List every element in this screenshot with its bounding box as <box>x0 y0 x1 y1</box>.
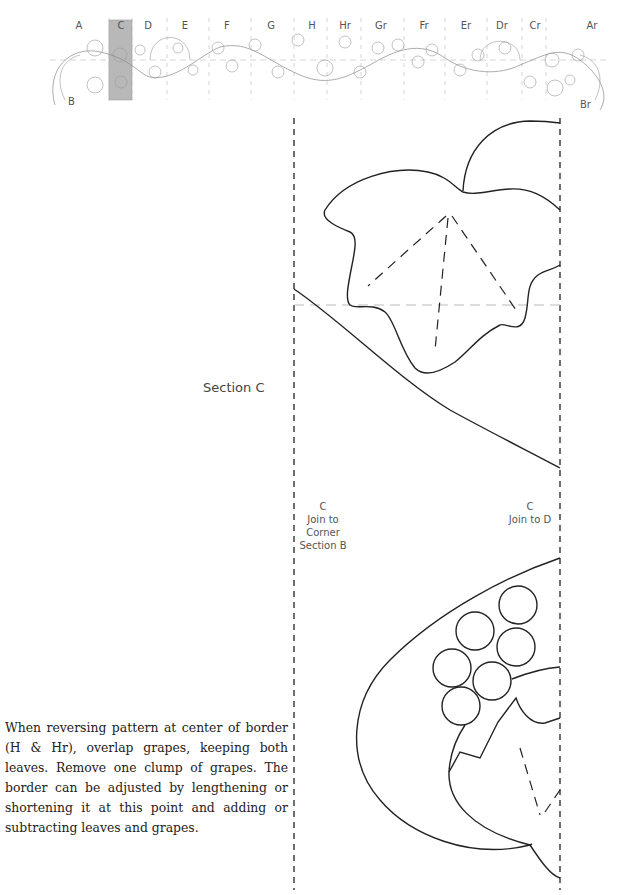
corner-label-br: Br <box>580 99 591 110</box>
segment-label-c: C <box>118 20 125 31</box>
corner-label-b: B <box>68 96 75 107</box>
instructions-note: When reversing pattern at center of bord… <box>5 718 288 838</box>
segment-label-d: D <box>144 20 152 31</box>
leaf-outline <box>324 170 560 373</box>
segment-label-cr: Cr <box>529 20 540 31</box>
grape-cluster-outline <box>357 558 560 849</box>
segment-label-hr: Hr <box>339 20 351 31</box>
segment-label-e: E <box>182 20 188 31</box>
section-title: Section C <box>203 380 265 395</box>
border-overview-artwork <box>0 0 627 125</box>
left-join-line1: C <box>292 500 354 513</box>
segment-label-er: Er <box>461 20 471 31</box>
segment-label-gr: Gr <box>375 20 387 31</box>
segment-label-ar: Ar <box>587 20 598 31</box>
segment-label-h: H <box>308 20 316 31</box>
vine-curve <box>294 289 560 468</box>
right-join-line1: C <box>500 500 560 513</box>
right-join-label: C Join to D <box>500 500 560 526</box>
left-join-line2: Join to <box>292 513 354 526</box>
right-join-line2: Join to D <box>500 513 560 526</box>
grapes <box>433 586 537 725</box>
left-join-line3: Corner <box>292 526 354 539</box>
segment-label-dr: Dr <box>496 20 508 31</box>
left-join-label: C Join to Corner Section B <box>292 500 354 552</box>
segment-label-fr: Fr <box>419 20 428 31</box>
segment-label-f: F <box>224 20 230 31</box>
left-join-line4: Section B <box>292 539 354 552</box>
segment-label-g: G <box>267 20 275 31</box>
segment-label-a: A <box>76 20 83 31</box>
